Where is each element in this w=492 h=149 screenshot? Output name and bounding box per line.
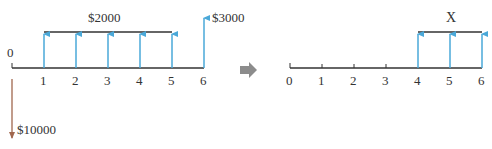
cash-flow-diagrams: 0 $2000 $3000 1 2 3 4 5 6 $10000 X 0 1 [0,0,492,149]
right-tick-label-6: 6 [478,73,485,88]
left-outflow-label: $10000 [17,122,56,137]
right-tick-label-0: 0 [286,73,293,88]
right-tick-label-5: 5 [446,73,453,88]
left-cash-flow-diagram: 0 $2000 $3000 1 2 3 4 5 6 $10000 [7,10,245,138]
left-annuity-label: $2000 [88,10,121,25]
right-tick-label-4: 4 [414,73,421,88]
right-annuity-label: X [446,10,456,25]
left-final-label: $3000 [212,10,245,25]
right-tick-label-1: 1 [318,73,325,88]
transform-arrow-icon [240,62,257,78]
left-tick-label-5: 5 [168,73,175,88]
right-tick-label-2: 2 [350,73,357,88]
left-origin-label: 0 [7,45,14,60]
left-tick-label-6: 6 [200,73,207,88]
right-tick-label-3: 3 [382,73,389,88]
right-cash-flow-diagram: X 0 1 2 3 4 5 6 [286,10,485,88]
left-tick-label-3: 3 [104,73,111,88]
left-tick-label-1: 1 [40,73,47,88]
left-tick-label-2: 2 [72,73,79,88]
left-tick-label-4: 4 [136,73,143,88]
